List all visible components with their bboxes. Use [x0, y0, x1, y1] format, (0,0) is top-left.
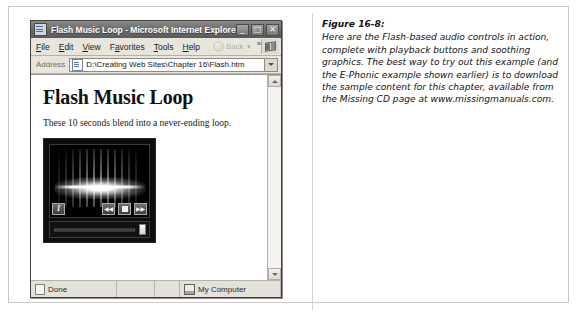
menu-item-view-label: iew	[88, 42, 101, 52]
window-title: Flash Music Loop - Microsoft Internet Ex…	[51, 25, 236, 35]
maximize-icon: □	[252, 25, 263, 35]
status-panel-1	[117, 281, 155, 297]
minimize-button[interactable]: _	[236, 24, 249, 36]
menu-item-favorites[interactable]: Favorites	[110, 42, 145, 52]
status-message-label: Done	[48, 285, 67, 294]
menu-item-edit[interactable]: Edit	[59, 42, 74, 52]
figure-caption-text: Here are the Flash-based audio controls …	[322, 31, 560, 105]
maximize-button[interactable]: □	[251, 24, 264, 36]
security-zone: My Computer	[180, 281, 281, 297]
forward-button[interactable]: ▶▶	[134, 203, 147, 215]
page-icon	[35, 284, 45, 295]
close-button[interactable]: ✕	[266, 24, 279, 36]
browser-window: Flash Music Loop - Microsoft Internet Ex…	[30, 20, 282, 298]
info-button[interactable]: I	[52, 203, 65, 215]
figure-caption: Figure 16-8: Here are the Flash-based au…	[322, 18, 560, 106]
address-dropdown-button[interactable]	[265, 58, 278, 72]
figure-number: Figure 16-8:	[322, 18, 560, 30]
address-bar: Address D:\Creating Web Sites\Chapter 16…	[31, 56, 281, 74]
flash-audio-player[interactable]: I ◀◀ ▶▶	[43, 138, 156, 243]
slider-thumb[interactable]	[139, 224, 146, 235]
transport-controls: ◀◀ ▶▶	[102, 203, 147, 215]
page-paragraph: These 10 seconds blend into a never-endi…	[43, 118, 257, 128]
figure-divider-rule	[312, 13, 313, 310]
title-bar[interactable]: Flash Music Loop - Microsoft Internet Ex…	[31, 21, 281, 38]
menu-item-tools-label: ools	[158, 42, 174, 52]
menu-item-edit-label: dit	[64, 42, 73, 52]
security-zone-label: My Computer	[198, 285, 246, 294]
slider-track	[54, 228, 135, 231]
menu-item-tools[interactable]: Tools	[154, 42, 174, 52]
windows-flag-icon[interactable]	[261, 39, 279, 54]
figure-frame: Flash Music Loop - Microsoft Internet Ex…	[8, 6, 569, 303]
scroll-down-button[interactable]	[268, 268, 281, 280]
back-arrow-icon	[213, 41, 224, 52]
minimize-icon: _	[237, 25, 248, 35]
back-button[interactable]: Back ▾	[213, 41, 251, 52]
menu-bar: File Edit View Favorites Tools Help Back…	[31, 38, 281, 56]
chevron-down-icon: ▾	[247, 43, 251, 51]
chevron-up-icon	[272, 80, 278, 83]
status-panel-2	[155, 281, 180, 297]
progress-slider[interactable]	[49, 221, 150, 238]
menu-item-help-label: elp	[189, 42, 200, 52]
vertical-scrollbar[interactable]	[267, 75, 281, 280]
status-message: Done	[31, 281, 117, 297]
chevron-down-icon	[272, 273, 278, 276]
menu-item-view[interactable]: View	[82, 42, 100, 52]
address-value: D:\Creating Web Sites\Chapter 16\Flash.h…	[86, 60, 244, 69]
web-page-content: Flash Music Loop These 10 seconds blend …	[31, 75, 267, 280]
window-controls: _ □ ✕	[236, 24, 279, 36]
menu-item-file[interactable]: File	[36, 42, 50, 52]
close-icon: ✕	[267, 25, 278, 35]
page-icon	[34, 23, 47, 36]
address-input[interactable]: D:\Creating Web Sites\Chapter 16\Flash.h…	[69, 58, 265, 72]
rewind-button[interactable]: ◀◀	[102, 203, 115, 215]
windows-flag-glyph	[265, 41, 276, 52]
status-bar: Done My Computer	[31, 280, 281, 297]
scroll-up-button[interactable]	[268, 75, 281, 87]
page-title: Flash Music Loop	[43, 86, 257, 109]
computer-icon	[184, 284, 195, 295]
audio-visualization: I ◀◀ ▶▶	[49, 144, 150, 218]
stop-button[interactable]	[118, 203, 131, 215]
center-beam	[54, 185, 145, 188]
address-label: Address	[36, 60, 65, 69]
menu-item-file-label: ile	[41, 42, 50, 52]
browser-viewport: Flash Music Loop These 10 seconds blend …	[31, 74, 281, 280]
chevron-down-icon	[268, 63, 274, 66]
menu-item-help[interactable]: Help	[183, 42, 200, 52]
scrollbar-track[interactable]	[268, 87, 281, 268]
page-icon	[72, 59, 83, 71]
stop-icon	[122, 206, 128, 212]
back-button-label: Back	[226, 42, 244, 51]
player-controls: I ◀◀ ▶▶	[52, 203, 147, 215]
menu-item-favorites-label: vorites	[120, 42, 145, 52]
